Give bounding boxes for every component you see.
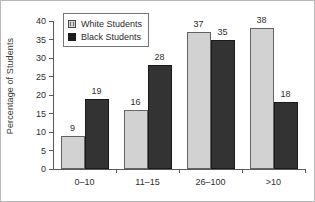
legend-label-black-students: Black Students [81,32,141,42]
y-axis-title: Percentage of Students [1,1,19,171]
y-axis-tick: 5 [29,146,53,156]
y-axis-tick-mark [49,150,53,151]
bar-black-2 [211,40,235,170]
x-axis-tick-mark [116,169,117,173]
legend-item-white-students: White Students [68,17,142,30]
y-axis-tick-mark [49,39,53,40]
chart-legend: White Students Black Students [63,13,149,47]
x-axis-tick-mark [179,169,180,173]
black-swatch-icon [68,33,76,41]
y-axis-title-text: Percentage of Students [5,38,15,134]
bar-white-2 [187,32,211,169]
bar-value-label: 37 [193,19,203,29]
legend-label-white-students: White Students [81,19,142,29]
legend-item-black-students: Black Students [68,30,142,43]
white-swatch-icon [68,20,76,28]
x-axis-category-label: 0–10 [74,177,94,187]
y-axis-tick-label: 35 [29,35,46,45]
bar-black-0 [85,99,109,169]
bar-value-label: 18 [280,89,290,99]
x-axis-category-label: 26–100 [195,177,225,187]
y-axis-tick-mark [49,58,53,59]
y-axis-tick-label: 30 [29,53,46,63]
bar-value-label: 9 [70,123,75,133]
x-axis-tick-mark [305,169,306,173]
x-axis-category-label: >10 [266,177,281,187]
y-axis-tick-label: 40 [29,16,46,26]
y-axis-tick: 20 [29,90,53,100]
bar-black-1 [148,65,172,169]
y-axis-tick-mark [49,21,53,22]
y-axis-tick-label: 5 [29,146,46,156]
y-axis-tick: 0 [29,164,53,174]
bar-value-label: 28 [154,52,164,62]
bar-white-3 [250,28,274,169]
bar-value-label: 19 [91,86,101,96]
bar-value-label: 38 [256,15,266,25]
bar-white-0 [61,136,85,169]
y-axis-tick: 25 [29,72,53,82]
bar-black-3 [274,102,298,169]
bar-white-1 [124,110,148,169]
bar-value-label: 35 [217,27,227,37]
y-axis-tick: 15 [29,109,53,119]
y-axis-tick-label: 20 [29,90,46,100]
y-axis-tick: 40 [29,16,53,26]
bar-value-label: 16 [130,97,140,107]
y-axis-tick-mark [49,132,53,133]
y-axis-tick: 35 [29,35,53,45]
y-axis-tick-label: 0 [29,164,46,174]
bar-chart-figure: Percentage of Students 05101520253035409… [0,0,315,202]
y-axis-tick-mark [49,76,53,77]
y-axis-tick-mark [49,95,53,96]
y-axis-tick-mark [49,113,53,114]
x-axis-category-label: 11–15 [135,177,159,187]
y-axis-tick-mark [49,169,53,170]
y-axis-tick-label: 25 [29,72,46,82]
x-axis-tick-mark [242,169,243,173]
y-axis-tick: 30 [29,53,53,63]
y-axis-tick-label: 10 [29,127,46,137]
y-axis-tick: 10 [29,127,53,137]
y-axis-tick-label: 15 [29,109,46,119]
